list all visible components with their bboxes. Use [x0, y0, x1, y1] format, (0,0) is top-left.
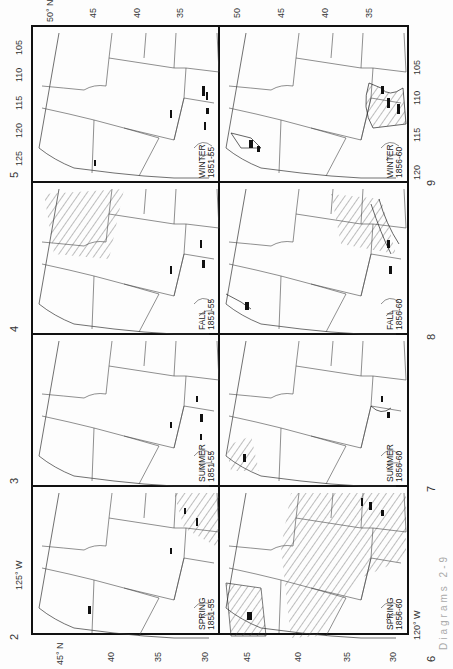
lon-tick: 120° W — [412, 610, 422, 640]
panel-number: 9 — [425, 180, 437, 186]
lat-tick: 35 — [342, 652, 352, 662]
lat-tick: 30 — [200, 652, 210, 662]
lat-tick: 50° N — [45, 0, 55, 22]
scanned-page: 50° N 45 40 35 50 45 40 35 45° N 40 35 3… — [0, 0, 453, 669]
panel-number: 8 — [425, 334, 437, 340]
panel-label-fall-1851-55: FALL1851-55 — [198, 299, 216, 330]
panel-number: 2 — [8, 634, 20, 640]
map-grid — [0, 0, 453, 669]
lat-tick: 45 — [276, 8, 286, 18]
panel-label-spring-1856-60: SPRING1856-60 — [386, 597, 404, 630]
lat-tick: 30 — [388, 652, 398, 662]
panel-number: 3 — [8, 478, 20, 484]
panel-label-spring-1851-55: SPRING1851-55 — [198, 597, 216, 630]
panel-label-winter-1851-55: WINTER1851-55 — [198, 144, 216, 178]
panel-label-fall-1856-60: FALL1856-60 — [386, 299, 404, 330]
figure-caption: Diagrams 2-9 — [438, 554, 449, 650]
lon-tick: 115 — [14, 96, 24, 110]
panel-label-winter-1856-60: WINTER1856-60 — [386, 144, 404, 178]
lat-tick: 45 — [88, 8, 98, 18]
lat-tick: 40 — [132, 8, 142, 18]
lon-tick: 115 — [412, 128, 422, 142]
panel-number: 7 — [425, 486, 437, 492]
lon-tick: 120 — [14, 123, 24, 138]
panel-number: 5 — [8, 172, 20, 178]
lat-tick: 40 — [320, 8, 330, 18]
lon-tick: 120 — [412, 165, 422, 180]
lat-tick: 35 — [153, 652, 163, 662]
lon-tick: 110 — [412, 91, 422, 105]
panel-number: 6 — [425, 656, 437, 662]
lat-tick: 50 — [232, 8, 242, 18]
lat-tick: 35 — [175, 8, 185, 18]
lon-tick: 125° W — [14, 560, 24, 590]
panel-label-summer-1851-55: SUMMER1851-55 — [198, 444, 216, 482]
lon-tick: 105 — [14, 40, 24, 55]
panel-number: 4 — [8, 326, 20, 332]
lat-tick: 40 — [293, 652, 303, 662]
lon-tick: 105 — [412, 60, 422, 75]
lat-tick: 45° N — [55, 642, 65, 665]
lon-tick: 110 — [14, 68, 24, 82]
lon-tick: 125 — [14, 151, 24, 166]
lat-tick: 40 — [106, 652, 116, 662]
panel-label-summer-1856-60: SUMMER1856-60 — [386, 444, 404, 482]
lat-tick: 35 — [364, 8, 374, 18]
lat-tick: 45 — [242, 652, 252, 662]
